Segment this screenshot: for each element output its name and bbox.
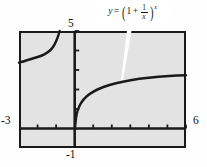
fraction-denominator: x: [142, 13, 145, 21]
equation-one: 1: [126, 7, 131, 17]
fraction-numerator: 1: [142, 4, 146, 12]
equation-text: y = ( 1 + 1 x ) x: [108, 4, 157, 21]
equation-callout: y = ( 1 + 1 x ) x: [95, 1, 170, 23]
equation-equals: =: [114, 7, 119, 17]
equation-paren-open: (: [122, 4, 126, 21]
equation-plus: +: [133, 7, 138, 17]
graph-figure: 5 -3 6 -1 y = ( 1 + 1 x ) x: [0, 0, 207, 167]
equation-fraction: 1 x: [141, 4, 148, 21]
equation-exponent: x: [154, 4, 157, 10]
callout-leader-line: [0, 0, 207, 167]
equation-var-y: y: [108, 7, 112, 17]
equation-paren-close: ): [150, 4, 154, 21]
